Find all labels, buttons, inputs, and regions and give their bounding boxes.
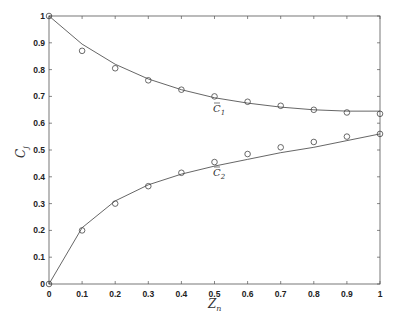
plot-axes [49, 16, 380, 284]
data-point-marker [278, 145, 284, 151]
data-point-marker [344, 110, 350, 116]
svg-text:C2: C2 [213, 167, 226, 181]
data-point-marker [212, 94, 218, 100]
x-tick-label: 1 [378, 289, 383, 299]
model-curve [49, 134, 380, 284]
x-tick-label: 0 [47, 289, 52, 299]
data-point-marker [245, 151, 251, 157]
data-point-marker [112, 201, 118, 207]
y-tick-label: 0.2 [33, 225, 45, 235]
data-point-marker [146, 78, 152, 84]
model-curve [49, 16, 380, 111]
y-tick-label: 0.5 [33, 145, 45, 155]
data-point-marker [245, 99, 251, 105]
data-point-marker [212, 159, 218, 165]
data-point-marker [344, 134, 350, 140]
axis-ticks: 00.10.20.30.40.50.60.70.80.9100.10.20.30… [33, 11, 382, 299]
data-markers [46, 13, 383, 287]
svg-text:C1: C1 [213, 103, 225, 117]
data-point-marker [179, 170, 185, 176]
y-tick-label: 0.3 [33, 199, 45, 209]
y-tick-label: 1 [40, 11, 45, 21]
y-tick-label: 0.4 [33, 172, 45, 182]
x-tick-label: 0.4 [175, 289, 187, 299]
y-axis-label: Cj [14, 146, 30, 158]
x-axis-label: Zn [207, 297, 222, 313]
annotation-c2: C2 [213, 167, 226, 181]
x-tick-label: 0.2 [109, 289, 121, 299]
y-tick-label: 0.8 [33, 65, 45, 75]
annotation-c1: C1 [213, 103, 225, 117]
x-tick-label: 0.9 [341, 289, 353, 299]
data-point-marker [79, 48, 85, 54]
model-curves [49, 16, 380, 284]
data-point-marker [311, 139, 317, 145]
x-tick-label: 0.3 [142, 289, 154, 299]
svg-text:Cj: Cj [14, 146, 30, 158]
data-point-marker [278, 103, 284, 109]
y-tick-label: 0 [40, 279, 45, 289]
x-tick-label: 0.7 [275, 289, 287, 299]
y-tick-label: 0.7 [33, 91, 45, 101]
x-tick-label: 0.6 [242, 289, 254, 299]
y-tick-label: 0.1 [33, 252, 45, 262]
data-point-marker [112, 65, 118, 71]
y-tick-label: 0.6 [33, 118, 45, 128]
line-chart: 00.10.20.30.40.50.60.70.80.9100.10.20.30… [0, 0, 393, 327]
y-tick-label: 0.9 [33, 38, 45, 48]
x-tick-label: 0.8 [308, 289, 320, 299]
x-tick-label: 0.1 [76, 289, 88, 299]
